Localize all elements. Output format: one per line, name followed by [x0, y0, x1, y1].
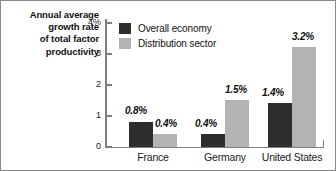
bar-united-states-overall-economy[interactable]: [268, 103, 292, 146]
legend: Overall economy Distribution sector: [119, 21, 216, 51]
y-tick-mark-4: [106, 22, 112, 24]
bar-value-germany-overall-economy: 0.4%: [195, 118, 217, 129]
y-tick-label-2: 2: [71, 79, 101, 89]
legend-item-distribution-sector[interactable]: Distribution sector: [119, 36, 216, 51]
y-tick-mark-2: [106, 84, 112, 86]
bar-value-france-distribution-sector: 0.4%: [155, 118, 177, 129]
y-tick-mark-0: [106, 146, 112, 148]
bar-value-united-states-overall-economy: 1.4%: [262, 87, 284, 98]
bar-chart-figure: Annual average growth rate of total fact…: [0, 0, 336, 171]
x-axis-line: [105, 147, 324, 149]
bar-france-distribution-sector[interactable]: [153, 134, 177, 146]
legend-item-overall-economy[interactable]: Overall economy: [119, 21, 216, 36]
bar-germany-distribution-sector[interactable]: [225, 100, 249, 147]
bar-united-states-distribution-sector[interactable]: [292, 47, 316, 146]
y-tick-mark-3: [106, 53, 112, 55]
y-tick-label-4: 4%: [71, 17, 101, 27]
x-axis-end-tick: [323, 140, 325, 148]
x-axis-label-united-states: United States: [254, 151, 330, 163]
legend-swatch-overall-economy: [119, 23, 131, 34]
y-tick-mark-1: [106, 115, 112, 117]
bar-value-germany-distribution-sector: 1.5%: [225, 84, 247, 95]
plot-area: 0 1 2 3 4% Overall economy Distribution …: [105, 15, 331, 151]
legend-label-overall-economy: Overall economy: [138, 23, 212, 34]
x-axis-label-france: France: [115, 151, 191, 163]
y-tick-label-1: 1: [71, 110, 101, 120]
y-tick-label-0: 0: [71, 141, 101, 151]
legend-label-distribution-sector: Distribution sector: [138, 38, 216, 49]
bar-value-france-overall-economy: 0.8%: [125, 105, 147, 116]
y-tick-label-3: 3: [71, 48, 101, 58]
x-axis-label-germany: Germany: [187, 151, 263, 163]
bar-france-overall-economy[interactable]: [129, 122, 153, 147]
bar-germany-overall-economy[interactable]: [201, 134, 225, 146]
bar-value-united-states-distribution-sector: 3.2%: [292, 31, 314, 42]
y-axis-title-line-3: of total factor: [3, 33, 99, 45]
legend-swatch-distribution-sector: [119, 38, 131, 49]
